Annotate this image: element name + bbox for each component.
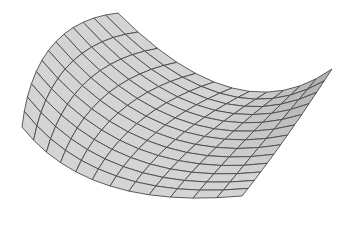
saddle-surface-figure [0, 0, 348, 225]
